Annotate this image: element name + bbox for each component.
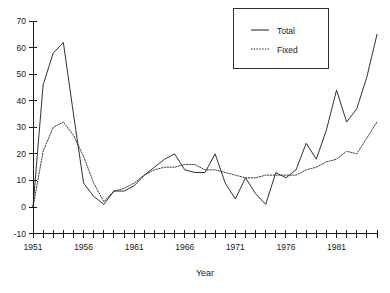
x-axis-ticks: 1951195619611966197119761981 xyxy=(24,230,377,252)
legend-label-fixed: Fixed xyxy=(277,45,298,55)
x-axis-title: Year xyxy=(196,268,214,278)
chart-figure: -10010203040506070 195119561961196619711… xyxy=(0,0,390,293)
x-tick-label: 1976 xyxy=(276,242,295,252)
y-tick-label: 60 xyxy=(17,43,27,53)
series-line-fixed xyxy=(33,122,377,207)
legend-label-total: Total xyxy=(277,26,295,36)
y-tick-label: 0 xyxy=(21,202,26,212)
line-chart: -10010203040506070 195119561961196619711… xyxy=(0,0,390,293)
y-tick-label: -10 xyxy=(14,229,27,239)
y-tick-label: 30 xyxy=(17,122,27,132)
x-tick-label: 1971 xyxy=(226,242,245,252)
y-tick-label: 40 xyxy=(17,96,27,106)
chart-legend: TotalFixed xyxy=(233,8,328,68)
y-tick-label: 50 xyxy=(17,69,27,79)
x-tick-label: 1961 xyxy=(125,242,144,252)
legend-box xyxy=(233,8,328,68)
y-tick-label: 10 xyxy=(17,175,27,185)
y-tick-label: 70 xyxy=(17,16,27,26)
y-tick-label: 20 xyxy=(17,149,27,159)
x-tick-label: 1956 xyxy=(74,242,93,252)
x-tick-label: 1981 xyxy=(327,242,346,252)
x-tick-label: 1966 xyxy=(175,242,194,252)
x-tick-label: 1951 xyxy=(24,242,43,252)
